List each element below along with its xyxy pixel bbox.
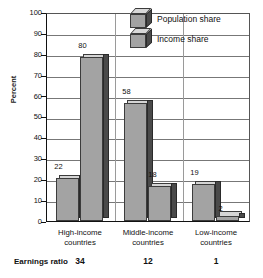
bar-high-income-population bbox=[56, 175, 79, 221]
y-tick-mark bbox=[41, 222, 46, 223]
bar-value-label-middle-income-population: 58 bbox=[115, 87, 138, 96]
y-tick-label-70: 70 bbox=[18, 72, 42, 80]
cube-front-face bbox=[130, 14, 146, 28]
category-label-low-income: Low-income countries bbox=[182, 228, 250, 247]
y-tick-label-90: 90 bbox=[18, 30, 42, 38]
bar-high-income-income bbox=[80, 54, 103, 221]
bar-value-label-high-income-population: 22 bbox=[47, 162, 70, 171]
earnings-ratio-value-high-income: 34 bbox=[46, 256, 114, 266]
y-axis-title: Percent bbox=[9, 55, 18, 125]
bar-value-label-high-income-income: 80 bbox=[71, 41, 94, 50]
earnings-ratio-value-middle-income: 12 bbox=[114, 256, 182, 266]
bar-side-face bbox=[103, 54, 109, 218]
gridline-vertical bbox=[115, 14, 116, 221]
y-tick-label-10: 10 bbox=[18, 197, 42, 205]
bar-middle-income-income bbox=[148, 183, 171, 221]
cube-swatch-icon bbox=[130, 28, 152, 48]
cube-side-face bbox=[146, 9, 152, 28]
gridline-horizontal bbox=[47, 77, 249, 78]
cube-swatch-icon bbox=[130, 8, 152, 28]
y-tick-label-30: 30 bbox=[18, 155, 42, 163]
y-tick-label-80: 80 bbox=[18, 51, 42, 59]
category-label-middle-income: Middle-income countries bbox=[114, 228, 182, 247]
chart-figure: Percent 100 90 80 70 60 50 40 30 20 10 0 bbox=[0, 0, 263, 278]
gridline-horizontal bbox=[47, 56, 249, 57]
bar-value-label-low-income-population: 19 bbox=[183, 168, 206, 177]
y-tick-label-60: 60 bbox=[18, 93, 42, 101]
y-tick-label-100: 100 bbox=[18, 9, 42, 17]
bar-front-face bbox=[80, 57, 103, 221]
gridline-horizontal bbox=[47, 98, 249, 99]
bar-middle-income-population bbox=[124, 100, 147, 221]
bar-side-face bbox=[171, 183, 177, 218]
y-tick-label-0: 0 bbox=[18, 218, 42, 226]
bar-low-income-population bbox=[192, 181, 215, 221]
legend-label-population-share: Population share bbox=[157, 14, 221, 24]
y-tick-label-20: 20 bbox=[18, 176, 42, 184]
bar-value-label-middle-income-income: 18 bbox=[141, 170, 164, 179]
bar-front-face bbox=[56, 178, 79, 221]
category-label-high-income: High-income countries bbox=[46, 228, 114, 247]
cube-side-face bbox=[146, 29, 152, 48]
y-tick-label-40: 40 bbox=[18, 134, 42, 142]
y-tick-label-50: 50 bbox=[18, 113, 42, 121]
bar-front-face bbox=[148, 186, 171, 221]
earnings-ratio-value-low-income: 1 bbox=[182, 256, 250, 266]
bar-side-face bbox=[239, 213, 245, 218]
cube-front-face bbox=[130, 34, 146, 48]
bar-front-face bbox=[124, 103, 147, 221]
legend-label-income-share: Income share bbox=[157, 34, 209, 44]
bar-front-face bbox=[216, 216, 239, 221]
gridline-vertical bbox=[183, 14, 184, 221]
bar-value-label-low-income-income: 2 bbox=[209, 204, 232, 213]
bar-front-face bbox=[192, 184, 215, 221]
